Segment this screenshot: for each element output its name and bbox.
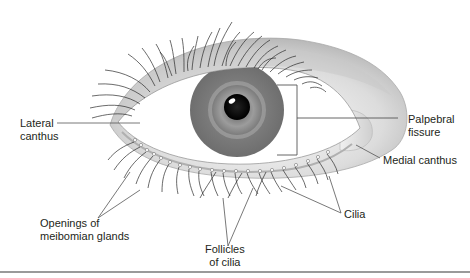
meibomian-leader-1 (98, 190, 140, 218)
cilia-leader-2 (329, 176, 341, 213)
label-palpebral-fissure: Palpebral fissure (408, 113, 454, 139)
meibomian-leader-2 (98, 172, 130, 218)
label-medial-canthus: Medial canthus (383, 154, 457, 167)
cilia-leader-1 (281, 186, 341, 213)
pupil (224, 94, 250, 120)
follicles-leader-1 (223, 198, 228, 246)
label-cilia: Cilia (344, 208, 365, 221)
bottom-divider (0, 271, 470, 273)
label-follicles-of-cilia: Follicles of cilia (205, 243, 245, 269)
label-meibomian-gland-openings: Openings of meibomian glands (40, 217, 129, 243)
follicles-leader-2 (228, 188, 253, 246)
label-lateral-canthus: Lateral canthus (20, 117, 59, 143)
